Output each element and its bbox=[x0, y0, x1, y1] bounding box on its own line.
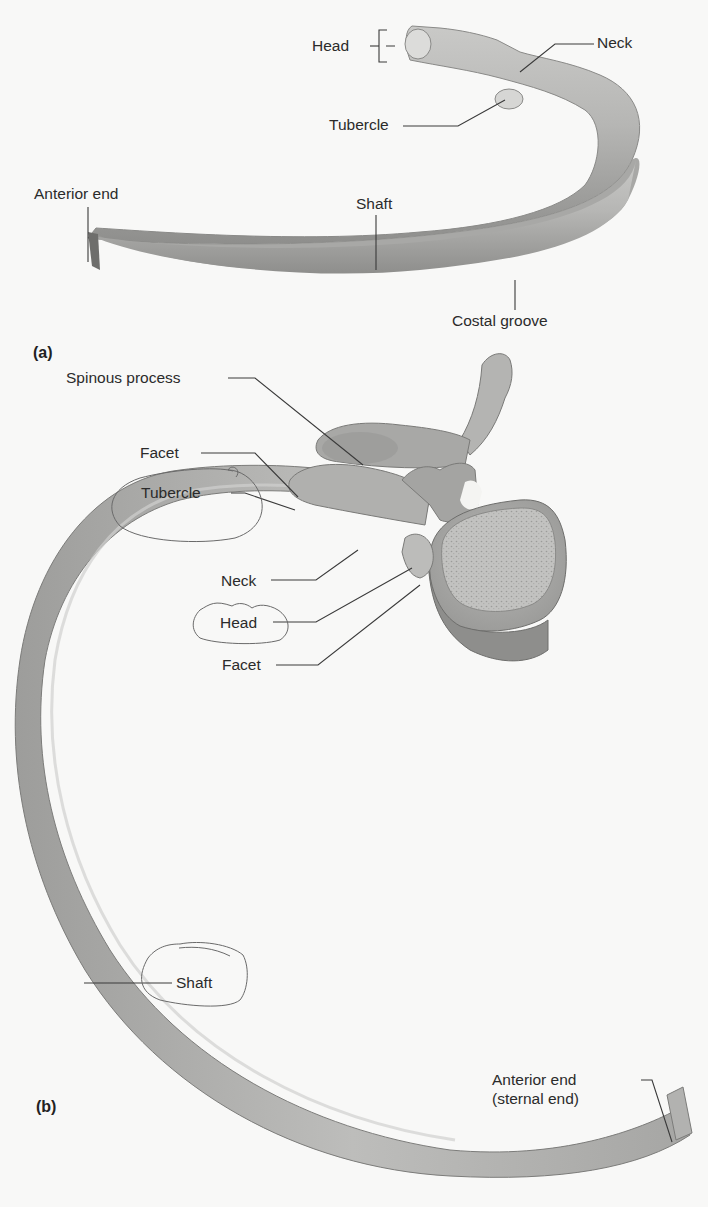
label-facet-upper-b: Facet bbox=[140, 444, 179, 462]
label-neck-a: Neck bbox=[597, 34, 632, 52]
label-sternal-end-b: (sternal end) bbox=[492, 1090, 579, 1108]
rib-a bbox=[88, 26, 640, 274]
label-anterior-end-a: Anterior end bbox=[34, 185, 118, 203]
rib-illustration bbox=[0, 0, 708, 1207]
rib-b bbox=[15, 354, 692, 1178]
label-shaft-b: Shaft bbox=[176, 974, 212, 992]
panel-label-a: (a) bbox=[33, 344, 53, 362]
label-tubercle-a: Tubercle bbox=[329, 116, 389, 134]
panel-label-b: (b) bbox=[36, 1098, 56, 1116]
label-head-b: Head bbox=[220, 614, 257, 632]
label-tubercle-b: Tubercle bbox=[141, 484, 201, 502]
label-head-a: Head bbox=[312, 37, 349, 55]
label-neck-b: Neck bbox=[221, 572, 256, 590]
label-anterior-end-b: Anterior end bbox=[492, 1071, 576, 1089]
label-costal-groove-a: Costal groove bbox=[452, 312, 548, 330]
label-shaft-a: Shaft bbox=[356, 195, 392, 213]
handwritten-circles bbox=[112, 467, 288, 1006]
label-facet-lower-b: Facet bbox=[222, 656, 261, 674]
rib-anatomy-figure: Head Neck Tubercle Anterior end Shaft Co… bbox=[0, 0, 708, 1207]
label-spinous-process-b: Spinous process bbox=[66, 369, 181, 387]
